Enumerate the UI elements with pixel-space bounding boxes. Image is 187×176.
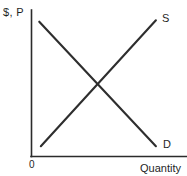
y-axis-label: $, P bbox=[3, 7, 24, 18]
chart-canvas bbox=[0, 0, 187, 176]
demand-curve-label: D bbox=[163, 139, 171, 150]
x-axis-label: Quantity bbox=[140, 163, 181, 174]
supply-demand-chart: $, P Quantity 0 S D bbox=[0, 0, 187, 176]
supply-curve-label: S bbox=[162, 13, 169, 24]
origin-label: 0 bbox=[29, 160, 35, 170]
